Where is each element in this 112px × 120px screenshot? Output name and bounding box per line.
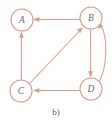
edge-c-to-b-arrowhead: [77, 27, 83, 33]
node-a-label: A: [18, 15, 25, 25]
edge-b-to-d-arrowhead: [88, 71, 93, 77]
edge-b-to-d: [88, 30, 93, 78]
figure-caption: b): [52, 107, 60, 117]
node-c[interactable]: C: [10, 80, 32, 102]
node-b[interactable]: B: [80, 7, 102, 29]
edge-d-to-b: [98, 22, 106, 83]
node-b-label: B: [88, 13, 94, 23]
directed-graph-diagram: A B C D b): [0, 0, 112, 120]
edge-b-to-a: [33, 17, 80, 22]
edge-d-to-c-arrowhead: [33, 88, 39, 93]
edge-c-to-a: [19, 32, 24, 80]
node-c-label: C: [18, 86, 25, 96]
edge-d-to-b-curve: [99, 25, 106, 83]
edge-c-to-b: [30, 27, 84, 83]
edge-c-to-a-arrowhead: [19, 32, 24, 38]
node-d-label: D: [87, 84, 95, 94]
figure-panel: A B C D b): [0, 0, 112, 120]
node-d[interactable]: D: [80, 78, 102, 100]
edge-b-to-a-arrowhead: [33, 17, 39, 22]
edge-d-to-c: [33, 88, 80, 93]
node-a[interactable]: A: [11, 9, 33, 31]
edge-c-to-b-line: [30, 30, 81, 84]
node-layer: A B C D: [10, 7, 102, 102]
